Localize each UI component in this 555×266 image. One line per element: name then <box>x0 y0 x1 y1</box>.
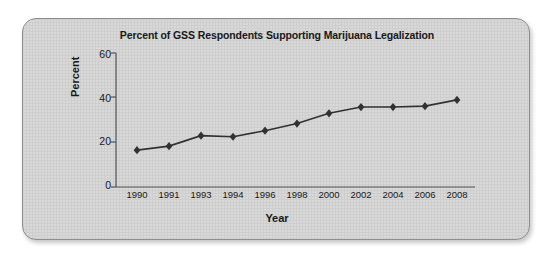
data-point-1994 <box>230 133 237 141</box>
data-point-1996 <box>262 127 269 135</box>
data-point-1993 <box>198 132 205 140</box>
data-point-1991 <box>166 142 173 150</box>
data-point-2004 <box>390 103 397 111</box>
data-point-markers <box>134 96 461 154</box>
data-point-1998 <box>294 119 301 127</box>
data-point-2008 <box>454 96 461 104</box>
data-point-2002 <box>358 103 365 111</box>
chart-plot-region: Percent of GSS Respondents Supporting Ma… <box>23 19 531 241</box>
data-point-1990 <box>134 146 141 154</box>
y-axis-ticks <box>111 53 116 187</box>
data-point-2006 <box>422 102 429 110</box>
data-point-2000 <box>326 109 333 117</box>
line-chart-svg <box>23 19 531 241</box>
chart-card: Percent of GSS Respondents Supporting Ma… <box>22 18 530 240</box>
